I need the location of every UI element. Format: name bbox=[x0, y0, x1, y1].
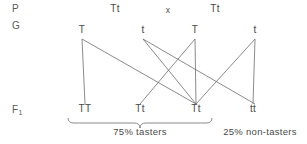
line-g2-to-f3 bbox=[143, 39, 196, 104]
genetics-cross-diagram: P G F1 Tt x Tt T t T t 75% tasters 25% n… bbox=[0, 0, 307, 144]
line-g4-to-f4 bbox=[253, 39, 255, 104]
offspring-subscript: 1 bbox=[18, 109, 22, 116]
row-label-parent: P bbox=[12, 4, 19, 14]
gamete-1: T bbox=[79, 25, 85, 35]
offspring-2: Tt bbox=[135, 104, 145, 114]
line-g4-to-f3 bbox=[196, 39, 255, 104]
cross-symbol: x bbox=[166, 5, 171, 15]
row-label-gamete: G bbox=[12, 21, 20, 31]
parent-genotype-right: Tt bbox=[210, 4, 220, 14]
gamete-3: T bbox=[192, 25, 198, 35]
cross-connector-lines bbox=[0, 0, 307, 144]
gamete-4: t bbox=[253, 25, 256, 35]
row-label-offspring: F1 bbox=[12, 105, 23, 116]
line-g2-to-f4 bbox=[143, 39, 255, 104]
line-g1-to-f1 bbox=[82, 39, 85, 104]
ratio-non-tasters: 25% non-tasters bbox=[223, 127, 297, 137]
offspring-1: TT bbox=[79, 104, 92, 114]
offspring-4: tt bbox=[250, 104, 256, 114]
offspring-3: Tt bbox=[191, 104, 201, 114]
line-g3-to-f3 bbox=[195, 39, 196, 104]
parent-genotype-left: Tt bbox=[110, 4, 120, 14]
gamete-2: t bbox=[141, 25, 144, 35]
line-g3-to-f2 bbox=[140, 39, 195, 104]
ratio-tasters: 75% tasters bbox=[113, 127, 166, 137]
line-g1-to-f3 bbox=[82, 39, 196, 104]
